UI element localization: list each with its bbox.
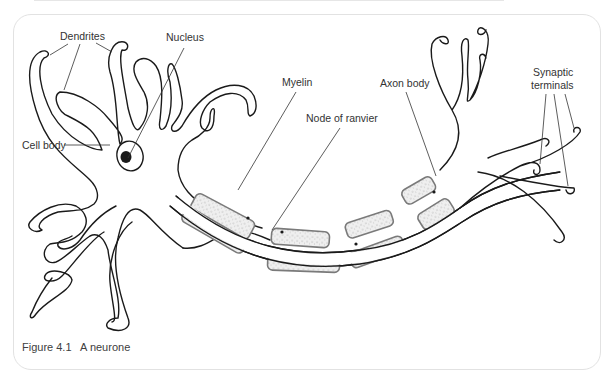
leader-myelin [238,92,296,190]
dendrite-lower-loop [30,232,104,318]
dendrite-lower-mid [110,222,132,322]
myelin-segment [400,175,437,206]
label-cell-body: Cell body [22,139,67,151]
schwann-nucleus [354,242,357,245]
leader-axon-body [406,92,436,176]
leader-dendrites-3 [96,43,112,52]
label-node-of-ranvier: Node of ranvier [306,112,378,124]
terminal-branch-upper [431,28,488,170]
myelin-segment [271,228,330,248]
leader-dendrites-1 [50,44,68,55]
figure-caption: Figure 4.1 A neurone [22,341,130,353]
label-myelin: Myelin [282,76,313,88]
schwann-nucleus [432,190,435,193]
nucleolus [121,151,132,163]
dendrite-lower-left [58,206,116,249]
leader-dendrites-2 [64,44,80,90]
schwann-nucleus [246,216,249,219]
leader-node-of-ranvier [272,128,340,230]
figure-title: A neurone [80,341,130,353]
label-nucleus: Nucleus [166,31,204,43]
label-synaptic-terminals-line2: terminals [531,79,574,91]
neurone-diagram: Dendrites Nucleus Cell body Myelin Node … [0,0,615,377]
label-dendrites: Dendrites [60,30,105,42]
myelin-segment [344,209,395,239]
label-axon-body: Axon body [380,77,430,89]
label-synaptic-terminals-line1: Synaptic [533,66,573,78]
leader-nucleus [128,48,184,158]
schwann-nucleus [280,230,283,233]
leader-synaptic-1 [540,94,546,164]
cell-body-outline [29,42,262,331]
leader-synaptic-3 [565,94,574,128]
figure-number: Figure 4.1 [22,341,72,353]
